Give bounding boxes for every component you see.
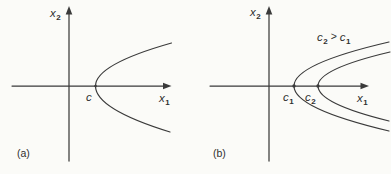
panel-a-caption: (a) <box>17 148 30 159</box>
panel-b-vertex-label-c1: c1 <box>283 88 294 104</box>
annotation-lhs-sub: 2 <box>323 37 327 46</box>
panel-b-vertex-c1-sub: 1 <box>289 97 293 106</box>
panel-a-vertex-label-c: c <box>86 88 92 104</box>
annotation-lhs-base: c <box>317 31 323 43</box>
panel-b-y-axis-arrow-icon <box>266 6 273 15</box>
panel-b-y-axis-label-sub: 2 <box>256 12 260 21</box>
panel-a-y-axis-label-base: x <box>50 7 56 19</box>
panel-a-vertex-dot <box>94 85 97 88</box>
panel-a-vertex-label-base: c <box>86 91 92 103</box>
two-panel-parabola-figure: x2 x1 c (a) x2 x1 c1 c2 c2>c1 (b) <box>0 0 391 174</box>
panel-b-vertex-c1-base: c <box>283 91 289 103</box>
panel-b-caption: (b) <box>213 148 226 159</box>
panel-b-x-axis-label-sub: 1 <box>363 98 367 107</box>
panel-b-vertex-c2-sub: 2 <box>311 97 315 106</box>
panel-b-x-axis-label-base: x <box>357 92 363 104</box>
panel-b-y-axis-label: x2 <box>250 3 261 19</box>
panel-a-parabola-c <box>96 43 172 132</box>
panel-b-annotation-c2-greater-c1: c2>c1 <box>317 28 351 44</box>
panel-b-vertex-label-c2: c2 <box>305 88 316 104</box>
figure-canvas <box>0 0 391 174</box>
panel-b-vertex-c2-dot <box>316 84 319 87</box>
panel-a-x-axis-label-base: x <box>159 92 165 104</box>
panel-b-y-axis-label-base: x <box>250 6 256 18</box>
panel-a-x-axis-label-sub: 1 <box>165 98 169 107</box>
annotation-rhs-sub: 1 <box>346 37 350 46</box>
panel-a-x-axis-label: x1 <box>159 89 170 105</box>
panel-a-y-axis-label-sub: 2 <box>56 13 60 22</box>
annotation-rhs-base: c <box>340 31 346 43</box>
annotation-operator: > <box>331 30 337 42</box>
panel-b-x-axis-label: x1 <box>357 89 368 105</box>
panel-a-y-axis-arrow-icon <box>66 6 73 15</box>
panel-b-vertex-c2-base: c <box>305 91 311 103</box>
panel-a-y-axis-label: x2 <box>50 4 61 20</box>
